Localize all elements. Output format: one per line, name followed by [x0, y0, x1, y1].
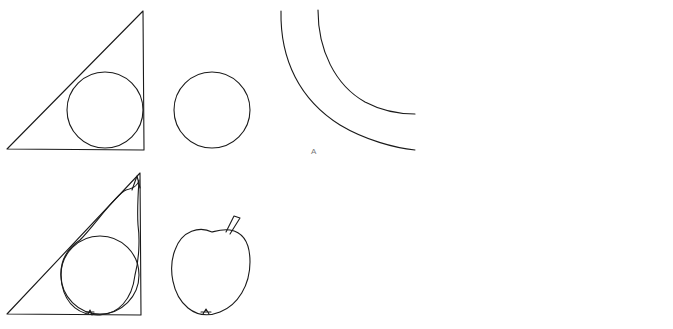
circle-drawing — [174, 72, 250, 148]
apple-drawing — [172, 216, 250, 315]
pear-in-triangle-drawing — [7, 173, 141, 315]
triangle-with-circle-drawing — [7, 11, 144, 150]
concentric-arcs-drawing — [281, 10, 415, 150]
figure-canvas — [0, 0, 673, 329]
arc-label: A — [311, 147, 316, 156]
